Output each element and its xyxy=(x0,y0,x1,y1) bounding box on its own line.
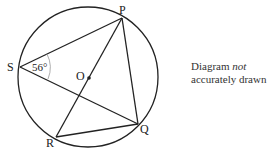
segment-pq xyxy=(122,18,138,124)
label-r: R xyxy=(46,136,54,150)
center-point xyxy=(87,76,91,80)
note-prefix: Diagram xyxy=(191,60,232,72)
note-line2: accurately drawn xyxy=(191,73,266,86)
angle-arc xyxy=(47,54,50,79)
segment-sp xyxy=(20,18,122,67)
label-q: Q xyxy=(140,122,149,136)
segment-rq xyxy=(56,124,138,137)
label-o: O xyxy=(76,69,85,83)
label-p: P xyxy=(119,3,126,17)
angle-label: 56° xyxy=(32,61,47,73)
note-emphasis: not xyxy=(232,60,246,72)
label-s: S xyxy=(7,60,14,74)
disclaimer-note: Diagram not accurately drawn xyxy=(191,60,266,86)
